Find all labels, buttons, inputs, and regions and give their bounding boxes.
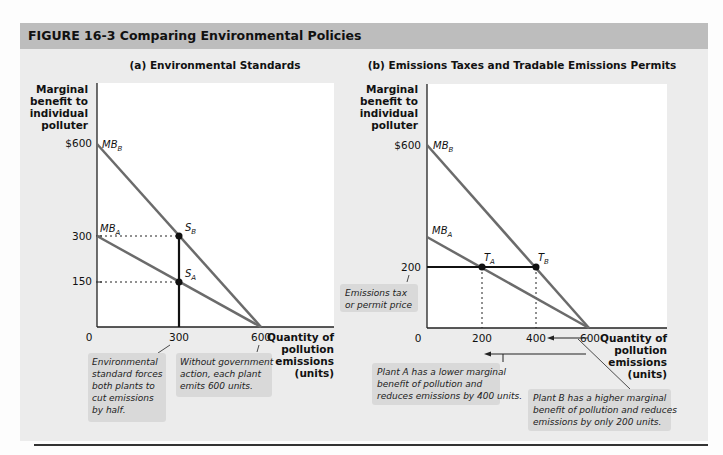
svg-text:standard forces: standard forces bbox=[92, 369, 163, 379]
svg-text:individual: individual bbox=[30, 107, 88, 119]
x-tick-0: 0 bbox=[86, 331, 93, 343]
svg-text:emissions: emissions bbox=[275, 355, 334, 367]
svg-text:Environmental: Environmental bbox=[92, 357, 158, 367]
svg-text:Emissions tax: Emissions tax bbox=[345, 288, 408, 298]
x-tick-300: 300 bbox=[169, 331, 189, 343]
chart-a-plot-area bbox=[97, 83, 334, 327]
svg-text:action, each plant: action, each plant bbox=[180, 369, 261, 379]
point-t-a bbox=[479, 264, 486, 271]
x-tick-0: 0 bbox=[415, 332, 422, 344]
chart-b-xlabel: Quantity of pollution emissions (units) bbox=[600, 332, 667, 380]
chart-b: (b) Emissions Taxes and Tradable Emissio… bbox=[340, 59, 677, 431]
svg-text:benefit of pollution and reduc: benefit of pollution and reduces bbox=[533, 405, 677, 415]
chart-b-plot-area bbox=[427, 84, 667, 328]
svg-text:both plants to: both plants to bbox=[92, 381, 155, 391]
svg-text:polluter: polluter bbox=[371, 119, 419, 131]
svg-text:pollution: pollution bbox=[281, 343, 334, 355]
svg-text:Quantity of: Quantity of bbox=[600, 332, 667, 344]
chart-a-ylabel: Marginal benefit to individual polluter bbox=[30, 83, 89, 131]
y-tick-200: 200 bbox=[401, 261, 421, 273]
svg-text:polluter: polluter bbox=[41, 119, 89, 131]
svg-text:Without government: Without government bbox=[180, 357, 274, 367]
svg-text:Marginal: Marginal bbox=[36, 83, 88, 95]
point-s-b bbox=[176, 233, 183, 240]
svg-text:or permit price: or permit price bbox=[345, 300, 413, 310]
point-s-a bbox=[176, 279, 183, 286]
x-tick-200: 200 bbox=[472, 332, 492, 344]
point-t-b bbox=[533, 264, 540, 271]
svg-text:individual: individual bbox=[360, 107, 418, 119]
y-tick-150: 150 bbox=[72, 275, 92, 287]
svg-text:emissions: emissions bbox=[608, 356, 667, 368]
svg-text:Marginal: Marginal bbox=[366, 83, 418, 95]
note-plant-b: Plant B has a higher marginal benefit of… bbox=[533, 393, 677, 427]
x-tick-400: 400 bbox=[526, 332, 546, 344]
chart-a: (a) Environmental Standards Marginal ben… bbox=[30, 59, 335, 422]
y-tick-600: $600 bbox=[394, 139, 421, 151]
y-tick-300: 300 bbox=[72, 230, 92, 242]
chart-a-title: (a) Environmental Standards bbox=[130, 59, 301, 71]
svg-text:benefit to: benefit to bbox=[30, 95, 88, 107]
chart-a-xlabel: Quantity of pollution emissions (units) bbox=[267, 331, 334, 379]
svg-text:reduces emissions by 400 units: reduces emissions by 400 units. bbox=[377, 391, 522, 401]
svg-text:Plant A has a lower marginal: Plant A has a lower marginal bbox=[377, 367, 507, 377]
svg-text:cut emissions: cut emissions bbox=[92, 393, 154, 403]
svg-text:(units): (units) bbox=[628, 368, 667, 380]
bottom-rule bbox=[34, 444, 708, 446]
note-plant-a: Plant A has a lower marginal benefit of … bbox=[377, 367, 522, 401]
figure-charts: (a) Environmental Standards Marginal ben… bbox=[0, 0, 723, 455]
chart-b-ylabel: Marginal benefit to individual polluter bbox=[360, 83, 419, 131]
svg-text:emissions by only 200 units.: emissions by only 200 units. bbox=[533, 417, 661, 427]
svg-text:pollution: pollution bbox=[614, 344, 667, 356]
svg-text:(units): (units) bbox=[295, 367, 334, 379]
chart-b-title: (b) Emissions Taxes and Tradable Emissio… bbox=[368, 59, 677, 71]
y-tick-600: $600 bbox=[65, 137, 92, 149]
svg-text:emits 600 units.: emits 600 units. bbox=[180, 381, 253, 391]
svg-text:by half.: by half. bbox=[92, 405, 126, 415]
svg-text:Quantity of: Quantity of bbox=[267, 331, 334, 343]
svg-text:benefit to: benefit to bbox=[360, 95, 418, 107]
svg-text:benefit of pollution and: benefit of pollution and bbox=[377, 379, 482, 389]
svg-text:Plant B has a higher marginal: Plant B has a higher marginal bbox=[533, 393, 667, 403]
